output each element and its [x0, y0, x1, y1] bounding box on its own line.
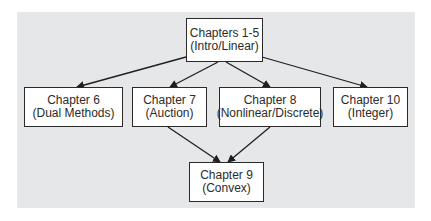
node-chapter-9: Chapter 9 (Convex) [189, 162, 264, 202]
node-chapter-10: Chapter 10 (Integer) [333, 87, 408, 127]
node-subtitle: (Intro/Linear) [190, 40, 259, 53]
edge-ch1-5-to-ch8 [226, 62, 270, 87]
node-subtitle: (Integer) [348, 107, 393, 120]
edge-ch1-5-to-ch10 [262, 57, 367, 87]
node-subtitle: (Convex) [202, 182, 251, 195]
node-chapter-7: Chapter 7 (Auction) [132, 87, 207, 127]
node-chapter-6: Chapter 6 (Dual Methods) [24, 87, 123, 127]
edge-ch7-to-ch9 [168, 127, 220, 162]
node-subtitle: (Auction) [145, 107, 193, 120]
node-subtitle: (Dual Methods) [32, 107, 114, 120]
node-chapter-8: Chapter 8 (Nonlinear/Discrete) [219, 87, 321, 127]
edge-ch8-to-ch9 [228, 127, 270, 162]
node-chapters-1-5: Chapters 1-5 (Intro/Linear) [186, 18, 263, 62]
edge-ch1-5-to-ch7 [170, 62, 218, 87]
edge-ch1-5-to-ch6 [77, 57, 186, 87]
node-subtitle: (Nonlinear/Discrete) [217, 107, 324, 120]
